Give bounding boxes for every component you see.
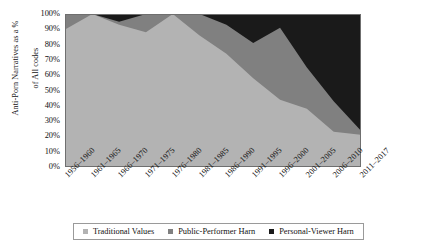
legend-item[interactable]: Public-Performer Harn (168, 227, 255, 236)
y-axis-tick-label: 60% (28, 71, 60, 79)
y-axis-tick-label: 80% (28, 40, 60, 48)
series-layers (66, 14, 361, 167)
y-axis-tick-label: 70% (28, 56, 60, 64)
legend-swatch-icon (269, 229, 274, 234)
y-axis-title-line-1: Anti-Porn Narratives as a % (11, 0, 21, 138)
y-axis-tick-label: 40% (28, 102, 60, 110)
legend-item-label: Traditional Values (93, 227, 154, 236)
legend-swatch-icon (83, 229, 88, 234)
legend-swatch-icon (168, 229, 173, 234)
legend-item-label: Public-Performer Harn (178, 227, 255, 236)
y-axis-tick-label: 90% (28, 25, 60, 33)
y-axis-tick-label: 50% (28, 86, 60, 94)
stacked-area-chart: Anti-Porn Narratives as a % of All codes… (0, 0, 429, 252)
legend-item[interactable]: Personal-Viewer Harn (269, 227, 354, 236)
plot-svg (65, 14, 361, 167)
legend-item-label: Personal-Viewer Harn (279, 227, 354, 236)
plot-area (65, 14, 361, 167)
y-axis-tick-label: 20% (28, 132, 60, 140)
y-axis-tick-label: 30% (28, 117, 60, 125)
y-axis-tick-label: 100% (28, 10, 60, 18)
y-axis-tick-label: 10% (28, 147, 60, 155)
y-axis-tick-label: 0% (28, 163, 60, 171)
x-axis-tick-label: 2011–2017 (358, 146, 391, 179)
y-axis-tick-labels: 100%90%80%70%60%50%40%30%20%10%0% (28, 12, 60, 167)
legend-item[interactable]: Traditional Values (83, 227, 154, 236)
chart-legend: Traditional ValuesPublic-Performer HarnP… (73, 223, 364, 240)
